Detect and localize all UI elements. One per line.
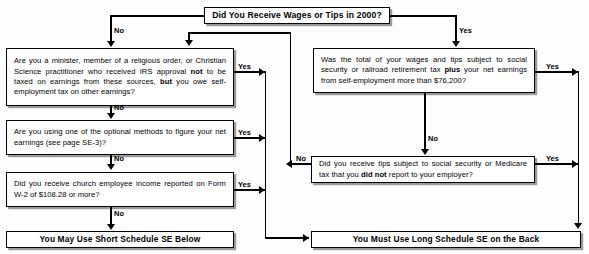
edge-label-no-left1: No bbox=[114, 103, 124, 112]
tips-text-part2: report to your employer? bbox=[387, 170, 473, 179]
edge-right-yes-rail-vertical bbox=[578, 71, 580, 224]
minister-text-bold-not: not bbox=[191, 67, 203, 76]
edge-label-no-right2: No bbox=[296, 154, 306, 163]
edge-label-no-left2: No bbox=[114, 154, 124, 163]
minister-text-bold-but: but bbox=[160, 77, 172, 86]
arrowhead-right2-no-loop-into-left1 bbox=[185, 40, 193, 46]
arrowhead-right-yes-rail-to-long bbox=[574, 223, 582, 229]
edge-right1-no-vertical bbox=[424, 93, 426, 150]
node-title-question: Did You Receive Wages or Tips in 2000? bbox=[204, 7, 390, 24]
edge-label-no-right1: No bbox=[428, 134, 438, 143]
arrowhead-left1-no bbox=[107, 113, 115, 119]
edge-label-no-left3: No bbox=[114, 209, 124, 218]
arrowhead-right1-no bbox=[421, 149, 429, 155]
node-minister-question-label: Are you a minister, member of a religiou… bbox=[7, 56, 233, 97]
edge-left-yes-rail-vertical bbox=[265, 71, 267, 238]
edge-left-yes-rail-to-long bbox=[265, 237, 309, 239]
arrowhead-left-yes-rail-to-long bbox=[303, 234, 309, 242]
flowchart-canvas: Did You Receive Wages or Tips in 2000? N… bbox=[0, 0, 589, 254]
node-outcome-short-schedule-label: You May Use Short Schedule SE Below bbox=[7, 234, 233, 244]
node-outcome-short-schedule: You May Use Short Schedule SE Below bbox=[6, 231, 234, 248]
wages-text-bold-plus: plus bbox=[444, 65, 460, 74]
node-wages-threshold-question: Was the total of your wages and tips sub… bbox=[313, 48, 535, 93]
edge-right2-no-loop-horizontal-top bbox=[188, 32, 291, 34]
edge-label-yes-title-right: Yes bbox=[459, 26, 472, 35]
edge-right2-no-horizontal bbox=[290, 163, 311, 165]
node-unreported-tips-question: Did you receive tips subject to social s… bbox=[311, 156, 535, 183]
node-outcome-long-schedule-label: You Must Use Long Schedule SE on the Bac… bbox=[312, 234, 580, 244]
node-title-question-label: Did You Receive Wages or Tips in 2000? bbox=[205, 10, 389, 20]
node-unreported-tips-question-label: Did you receive tips subject to social s… bbox=[312, 159, 534, 180]
edge-title-to-right-vertical bbox=[455, 15, 457, 41]
edge-title-to-left-horizontal bbox=[110, 15, 205, 17]
node-outcome-long-schedule: You Must Use Long Schedule SE on the Bac… bbox=[311, 231, 581, 248]
edge-label-yes-left1: Yes bbox=[238, 62, 251, 71]
edge-label-no-title-left: No bbox=[114, 26, 124, 35]
edge-label-yes-left3: Yes bbox=[238, 180, 251, 189]
edge-title-to-right-horizontal bbox=[389, 15, 456, 17]
edge-right2-no-loop-vertical bbox=[290, 32, 292, 163]
node-optional-methods-question-label: Are you using one of the optional method… bbox=[7, 127, 233, 148]
edge-label-yes-right2: Yes bbox=[546, 154, 559, 163]
edge-left3-no-vertical bbox=[110, 207, 112, 225]
edge-label-yes-left2: Yes bbox=[238, 128, 251, 137]
arrowhead-left2-no bbox=[107, 164, 115, 170]
arrowhead-title-to-right bbox=[452, 41, 460, 47]
node-optional-methods-question: Are you using one of the optional method… bbox=[6, 120, 234, 155]
arrowhead-title-to-left bbox=[107, 41, 115, 47]
node-minister-question: Are you a minister, member of a religiou… bbox=[6, 48, 234, 106]
arrowhead-left3-no bbox=[107, 224, 115, 230]
edge-label-yes-right1: Yes bbox=[546, 62, 559, 71]
node-church-income-question-label: Did you receive church employee income r… bbox=[7, 179, 233, 200]
node-wages-threshold-question-label: Was the total of your wages and tips sub… bbox=[314, 55, 534, 86]
node-church-income-question: Did you receive church employee income r… bbox=[6, 172, 234, 207]
tips-text-bold-didnot: did not bbox=[361, 170, 387, 179]
edge-title-to-left-vertical bbox=[110, 15, 112, 41]
